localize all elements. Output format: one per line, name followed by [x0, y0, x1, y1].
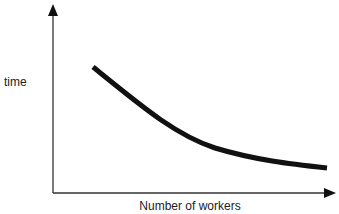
x-axis-label: Number of workers	[0, 199, 339, 213]
y-axis-label: time	[4, 75, 27, 89]
x-axis-arrow-icon	[324, 188, 336, 198]
time-curve	[93, 67, 327, 168]
chart-canvas	[0, 0, 339, 214]
y-axis-arrow-icon	[48, 4, 58, 16]
